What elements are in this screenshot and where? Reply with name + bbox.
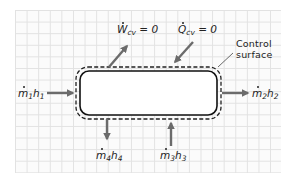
- inlet-3-enthalpy-sub: 3: [182, 154, 187, 163]
- outlet-4-enthalpy-sub: 4: [118, 154, 123, 163]
- inlet-1-enthalpy-sub: 1: [40, 92, 45, 101]
- control-surface-label: Control surface: [236, 38, 273, 60]
- control-surface-leader-line: [218, 53, 233, 67]
- outlet-2-mass-flow: m: [252, 88, 262, 99]
- heat-rate-label: Qcv = 0: [178, 24, 217, 35]
- heat-subscript: cv: [186, 28, 195, 37]
- work-subscript: cv: [127, 28, 136, 37]
- heat-symbol: Q: [178, 24, 186, 35]
- outlet-2-enthalpy-sub: 2: [274, 92, 279, 101]
- outlet-2-enthalpy: h: [267, 87, 274, 99]
- work-rate-label: Wcv = 0: [117, 24, 158, 35]
- vessel-outline: [80, 71, 217, 115]
- work-symbol: W: [117, 24, 127, 35]
- work-value: = 0: [139, 23, 158, 35]
- inlet-3-enthalpy: h: [175, 149, 182, 161]
- work-arrow: [109, 46, 127, 67]
- heat-arrow: [175, 42, 193, 62]
- inlet-1-enthalpy: h: [33, 87, 40, 99]
- outlet-4-label: m4h4: [96, 150, 122, 161]
- inlet-1-label: m1h1: [18, 88, 44, 99]
- control-surface-label-line1: Control: [236, 38, 273, 49]
- inlet-3-label: m3h3: [160, 150, 186, 161]
- control-surface-label-line2: surface: [236, 49, 273, 60]
- outlet-2-label: m2h2: [252, 88, 278, 99]
- inlet-3-mass-flow: m: [160, 150, 170, 161]
- heat-value: = 0: [198, 23, 217, 35]
- outlet-4-enthalpy: h: [111, 149, 118, 161]
- inlet-1-mass-flow: m: [18, 88, 28, 99]
- outlet-4-mass-flow: m: [96, 150, 106, 161]
